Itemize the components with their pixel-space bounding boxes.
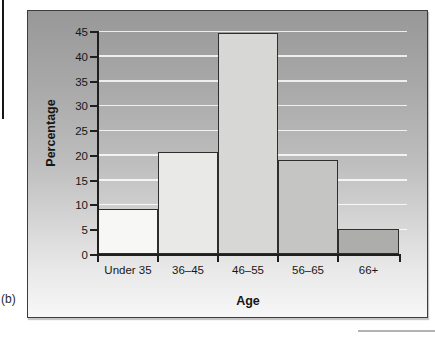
bar-36-45 xyxy=(158,152,218,254)
y-tick-label-0: 0 xyxy=(56,248,88,262)
y-tick-40 xyxy=(90,56,97,58)
x-axis-title: Age xyxy=(188,294,308,308)
y-tick-5 xyxy=(90,229,97,231)
x-tick-4 xyxy=(337,256,339,262)
y-tick-label-25: 25 xyxy=(56,124,88,138)
histogram-figure: 051015202530354045Under 3536–4546–5556–6… xyxy=(27,10,428,318)
previous-figure-edge-rule xyxy=(2,0,4,119)
y-tick-15 xyxy=(90,180,97,182)
gridline-45 xyxy=(98,31,407,33)
y-tick-45 xyxy=(90,31,97,33)
y-axis-line xyxy=(97,31,99,256)
x-tick-2 xyxy=(217,256,219,262)
y-tick-25 xyxy=(90,130,97,132)
panel-label: (b) xyxy=(1,292,16,306)
x-tick-0 xyxy=(97,256,99,262)
bar-46-55 xyxy=(218,33,278,254)
page-rule-line xyxy=(358,330,435,332)
y-tick-label-15: 15 xyxy=(56,174,88,188)
y-tick-label-20: 20 xyxy=(56,149,88,163)
y-axis-title: Percentage xyxy=(44,83,60,183)
y-tick-35 xyxy=(90,81,97,83)
y-tick-0 xyxy=(90,254,97,256)
x-tick-end xyxy=(399,256,401,262)
y-tick-label-5: 5 xyxy=(56,223,88,237)
x-tick-1 xyxy=(157,256,159,262)
bar-under-35 xyxy=(98,209,158,254)
x-tick-label-66: 66+ xyxy=(328,263,409,277)
y-tick-20 xyxy=(90,155,97,157)
y-tick-30 xyxy=(90,105,97,107)
y-tick-label-10: 10 xyxy=(56,198,88,212)
scanned-page: (b) 051015202530354045Under 3536–4546–55… xyxy=(0,0,435,339)
x-tick-3 xyxy=(277,256,279,262)
y-tick-label-30: 30 xyxy=(56,99,88,113)
bar-66 xyxy=(338,229,399,254)
bar-56-65 xyxy=(278,160,338,254)
y-tick-label-40: 40 xyxy=(56,50,88,64)
x-axis-line xyxy=(97,254,402,256)
y-tick-label-35: 35 xyxy=(56,75,88,89)
y-tick-label-45: 45 xyxy=(56,25,88,39)
y-tick-10 xyxy=(90,204,97,206)
